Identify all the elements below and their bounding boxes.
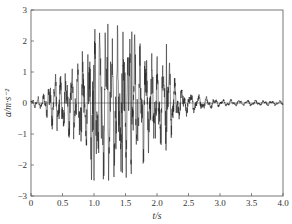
plot-area [31,10,283,196]
x-tick-label: 2.0 [151,198,163,208]
x-tick-label: 1.5 [120,198,132,208]
y-tick-label: 0 [23,98,28,108]
x-tick-label: 3.5 [246,198,258,208]
x-tick-label: 1.0 [88,198,100,208]
acceleration-chart: 00.51.01.52.02.53.03.54.0 3210−1−2−3 t/s… [0,0,292,224]
y-tick-label: 1 [23,67,28,77]
x-axis: 00.51.01.52.02.53.03.54.0 [29,193,289,208]
y-tick-label: −3 [17,191,27,201]
x-tick-label: 4.0 [277,198,289,208]
y-axis-title: a/m·s⁻² [3,89,13,117]
x-tick-label: 3.0 [214,198,226,208]
y-tick-label: −2 [17,160,27,170]
y-axis: 3210−1−2−3 [17,5,34,201]
y-tick-label: −1 [17,129,27,139]
y-tick-label: 3 [23,5,28,15]
y-tick-label: 2 [23,36,28,46]
x-tick-label: 0 [29,198,34,208]
x-tick-label: 0.5 [57,198,69,208]
acceleration-series [31,24,283,181]
x-tick-label: 2.5 [183,198,195,208]
x-axis-title: t/s [153,211,162,221]
